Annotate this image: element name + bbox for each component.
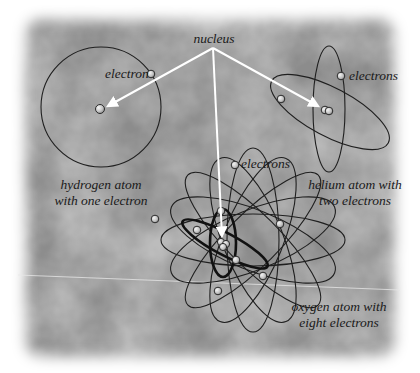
oxygen-electron-1 — [231, 161, 239, 169]
hydrogen-caption-line1: hydrogen atom — [61, 177, 142, 192]
oxygen-electrons-label: electrons — [241, 156, 290, 171]
hydrogen-caption-line2: with one electron — [54, 193, 147, 208]
oxygen-electron-3 — [276, 220, 284, 228]
oxygen-electron-8 — [214, 287, 222, 295]
helium-caption-line1: helium atom with — [308, 177, 402, 192]
oxygen-nucleus-particle-3 — [219, 243, 226, 250]
helium-electrons-label: electrons — [349, 68, 398, 83]
oxygen-electron-4 — [193, 226, 201, 234]
helium-electron-2 — [277, 95, 285, 103]
atom-structure-diagram: electron hydrogen atom with one electron… — [0, 0, 420, 373]
helium-electron-1 — [337, 72, 345, 80]
oxygen-caption-line1: oxygen atom with — [291, 299, 386, 314]
helium-caption-line2: two electrons — [319, 193, 391, 208]
hydrogen-electron-label: electron — [105, 66, 149, 81]
nucleus-label: nucleus — [193, 31, 234, 46]
oxygen-electron-6 — [232, 256, 240, 264]
helium-nucleus-neutron — [325, 107, 333, 115]
oxygen-electron-7 — [259, 272, 267, 280]
hydrogen-nucleus — [96, 105, 105, 114]
oxygen-electron-2 — [151, 215, 159, 223]
oxygen-caption-line2: eight electrons — [299, 315, 378, 330]
